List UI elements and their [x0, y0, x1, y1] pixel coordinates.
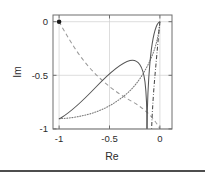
- critical-point-marker-icon: [57, 19, 62, 24]
- x-tick-label-0: 0: [157, 133, 162, 144]
- x-axis-title: Re: [105, 150, 119, 162]
- y-axis-title: Im: [11, 66, 23, 78]
- figure-container: -1 -0.5 0 0 -0.5 -1 Re Im: [0, 0, 205, 172]
- figure-bottom-rule: [0, 170, 205, 172]
- complex-plane-plot: -1 -0.5 0 0 -0.5 -1 Re Im: [0, 0, 205, 172]
- y-tick-label-0: 0: [43, 16, 48, 27]
- x-tick-label-neg0p5: -0.5: [101, 133, 117, 144]
- x-tick-label-neg1: -1: [55, 133, 63, 144]
- y-tick-label-neg0p5: -0.5: [32, 70, 48, 81]
- y-tick-label-neg1: -1: [40, 123, 48, 134]
